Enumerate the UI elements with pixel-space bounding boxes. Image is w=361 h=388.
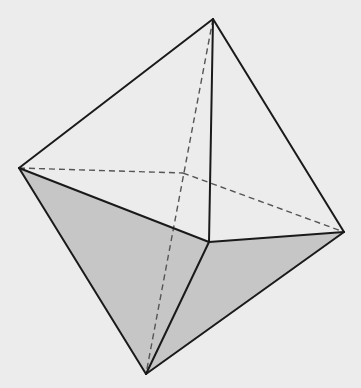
edge-top-right (213, 19, 344, 232)
hidden-edge-left-back (19, 168, 183, 173)
octahedron-diagram (0, 0, 361, 388)
edge-top-front (209, 19, 213, 242)
hidden-edge-back-right (183, 173, 344, 232)
edge-top-left (19, 19, 213, 168)
